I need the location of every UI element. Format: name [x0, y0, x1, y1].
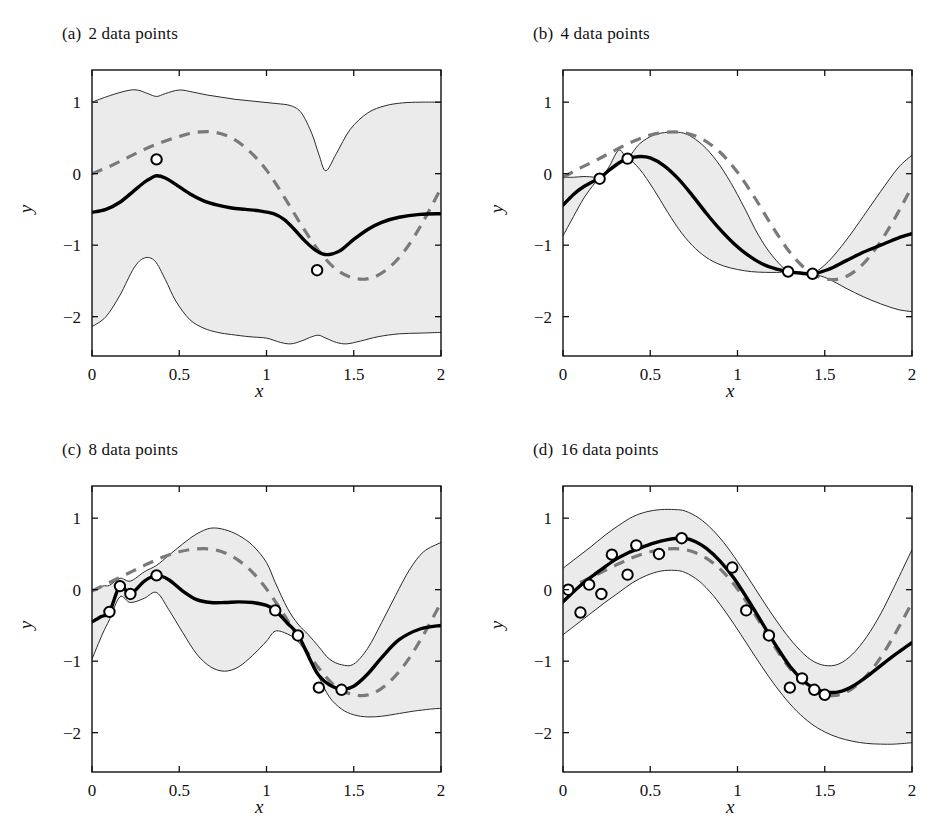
x-tick-label: 0.5 [640, 365, 661, 384]
data-point-marker [104, 607, 114, 617]
data-point-marker [676, 533, 686, 543]
x-tick-label: 2 [437, 781, 446, 800]
data-point-marker [151, 154, 161, 164]
panel-c-ylabel: y [15, 621, 37, 629]
data-point-marker [622, 153, 632, 163]
y-tick-label: 1 [73, 509, 82, 528]
data-point-marker [785, 682, 795, 692]
data-point-marker [336, 685, 346, 695]
panel-b-plot: 00.511.5210−1−2 [471, 0, 941, 419]
x-tick-label: 2 [437, 365, 446, 384]
x-tick-label: 2 [908, 365, 917, 384]
data-point-marker [293, 630, 303, 640]
panel-a-ylabel: y [15, 205, 37, 213]
y-tick-label: −2 [63, 724, 81, 743]
data-point-marker [807, 269, 817, 279]
panel-d-svg: 00.511.5210−1−2 [471, 416, 941, 831]
panel-b-ylabel: y [486, 205, 508, 213]
panel-c-svg: 00.511.5210−1−2 [0, 416, 470, 831]
y-tick-label: −2 [63, 308, 81, 327]
data-point-marker [575, 607, 585, 617]
y-tick-label: −1 [63, 236, 81, 255]
y-tick-label: 0 [73, 581, 82, 600]
x-tick-label: 0.5 [169, 781, 190, 800]
y-tick-label: −1 [63, 652, 81, 671]
panel-c: (c)8 data points 00.511.5210−1−2 y x [0, 416, 470, 831]
data-point-marker [654, 549, 664, 559]
data-point-marker [764, 630, 774, 640]
data-point-marker [797, 673, 807, 683]
panel-d-ylabel: y [486, 621, 508, 629]
x-tick-label: 1 [262, 365, 271, 384]
data-point-marker [727, 562, 737, 572]
data-point-marker [783, 266, 793, 276]
x-tick-label: 2 [908, 781, 917, 800]
x-tick-label: 0 [88, 365, 97, 384]
panel-c-xlabel: x [255, 796, 263, 818]
panel-a-xlabel: x [255, 380, 263, 402]
data-point-marker [741, 605, 751, 615]
panel-a-svg: 00.511.5210−1−2 [0, 0, 470, 415]
x-tick-label: 1 [262, 781, 271, 800]
data-point-marker [622, 569, 632, 579]
panel-b-xlabel: x [726, 380, 734, 402]
data-point-marker [115, 581, 125, 591]
data-point-marker [312, 265, 322, 275]
panel-a: (a)2 data points 00.511.5210−1−2 y x [0, 0, 470, 415]
panel-a-uncertainty-band [92, 90, 441, 344]
x-tick-label: 0.5 [640, 781, 661, 800]
x-tick-label: 1.5 [343, 781, 364, 800]
data-point-marker [270, 605, 280, 615]
data-point-marker [594, 173, 604, 183]
x-tick-label: 1 [733, 365, 742, 384]
y-tick-label: 0 [544, 165, 553, 184]
x-tick-label: 0 [559, 365, 568, 384]
data-point-marker [151, 570, 161, 580]
panel-b-svg: 00.511.5210−1−2 [471, 0, 941, 415]
y-tick-label: 0 [73, 165, 82, 184]
data-point-marker [607, 549, 617, 559]
panel-d-xlabel: x [726, 796, 734, 818]
data-point-marker [631, 540, 641, 550]
panel-d-uncertainty-band [563, 509, 912, 744]
panel-c-plot: 00.511.5210−1−2 [0, 416, 470, 831]
data-point-marker [596, 589, 606, 599]
panel-b: (b)4 data points 00.511.5210−1−2 y x [471, 0, 941, 415]
data-point-marker [584, 579, 594, 589]
panel-d: (d)16 data points 00.511.5210−1−2 y x [471, 416, 941, 831]
panel-a-plot: 00.511.5210−1−2 [0, 0, 470, 419]
y-tick-label: −2 [534, 724, 552, 743]
x-tick-label: 0 [559, 781, 568, 800]
panel-c-uncertainty-band [92, 528, 441, 717]
y-tick-label: −1 [534, 652, 552, 671]
data-point-marker [820, 690, 830, 700]
y-tick-label: −1 [534, 236, 552, 255]
x-tick-label: 0 [88, 781, 97, 800]
figure-gaussian-process-panels: (a)2 data points 00.511.5210−1−2 y x (b)… [0, 0, 941, 831]
y-tick-label: 1 [73, 93, 82, 112]
x-tick-label: 0.5 [169, 365, 190, 384]
x-tick-label: 1.5 [814, 365, 835, 384]
y-tick-label: −2 [534, 308, 552, 327]
x-tick-label: 1 [733, 781, 742, 800]
x-tick-label: 1.5 [814, 781, 835, 800]
y-tick-label: 1 [544, 93, 553, 112]
y-tick-label: 0 [544, 581, 553, 600]
data-point-marker [809, 685, 819, 695]
y-tick-label: 1 [544, 509, 553, 528]
data-point-marker [314, 682, 324, 692]
panel-d-plot: 00.511.5210−1−2 [471, 416, 941, 831]
x-tick-label: 1.5 [343, 365, 364, 384]
data-point-marker [125, 589, 135, 599]
